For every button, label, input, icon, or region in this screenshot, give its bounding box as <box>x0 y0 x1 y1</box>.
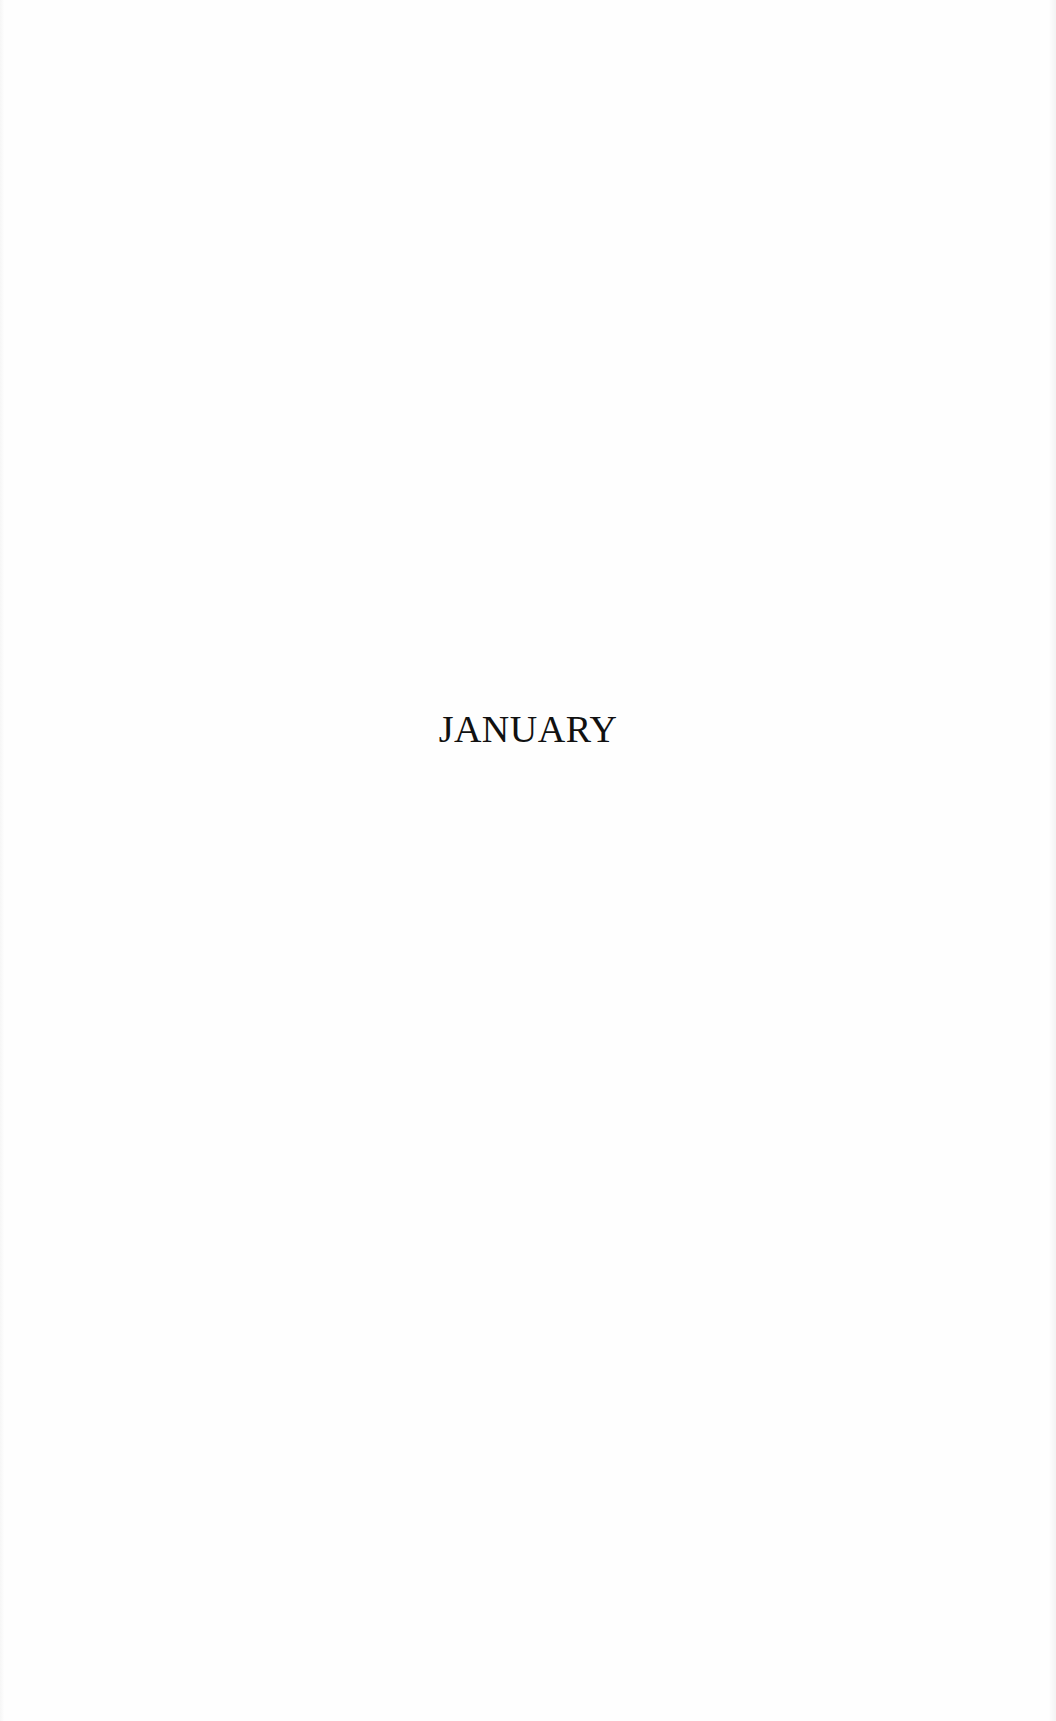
section-heading: JANUARY <box>0 706 1056 752</box>
page-edge-right <box>1048 0 1056 1721</box>
page-edge-left <box>0 0 5 1721</box>
book-page: JANUARY <box>0 0 1056 1721</box>
